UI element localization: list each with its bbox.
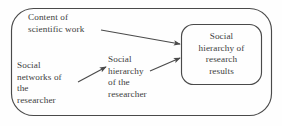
node-label-social-hierarchy-of-the-researcher: Social hierarchy of the researcher — [108, 54, 170, 101]
arrow-content-to-results — [101, 30, 180, 44]
node-label-social-networks-of-the-researcher: Social networks of the researcher — [17, 60, 87, 107]
node-label-social-hierarchy-of-research-results: Social hierarchy of research results — [183, 31, 260, 77]
diagram-canvas: Content of scientific work Social networ… — [0, 0, 282, 126]
node-label-content-of-scientific-work: Content of scientific work — [28, 12, 108, 35]
